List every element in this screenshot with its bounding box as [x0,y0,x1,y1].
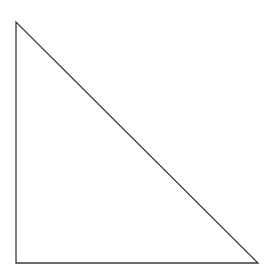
right-triangle [16,22,258,263]
diagram-canvas [0,0,272,274]
